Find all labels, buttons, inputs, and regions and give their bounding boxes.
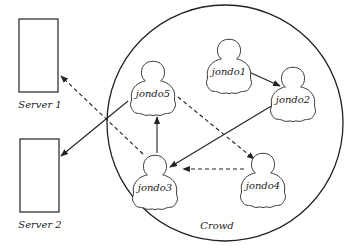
server-1-label: Server 1 (18, 99, 61, 110)
server-2-label: Server 2 (18, 219, 61, 230)
jondo4-node: jondo4 (240, 153, 285, 207)
server-1-box (19, 19, 58, 92)
jondo1-label: jondo1 (210, 66, 246, 77)
jondo5-node: jondo5 (130, 61, 175, 115)
jondo4-label: jondo4 (244, 180, 280, 191)
crowds-diagram: Crowd Server 1 Server 2 jondo1 jondo2 jo… (0, 0, 344, 248)
edge-jondo5-to-jondo4 (178, 97, 254, 159)
edge-jondo3-to-server1 (61, 76, 143, 154)
edge-jondo5-to-server2 (61, 101, 128, 156)
server-2-box (20, 139, 59, 212)
jondo2-node: jondo2 (270, 67, 315, 121)
jondo1-node: jondo1 (206, 39, 251, 93)
crowd-label: Crowd (200, 220, 233, 231)
jondo3-node: jondo3 (132, 155, 177, 209)
jondo5-label: jondo5 (134, 88, 170, 99)
jondo3-label: jondo3 (136, 182, 172, 193)
jondo2-label: jondo2 (274, 94, 310, 105)
edge-jondo1-to-jondo2 (249, 72, 280, 86)
